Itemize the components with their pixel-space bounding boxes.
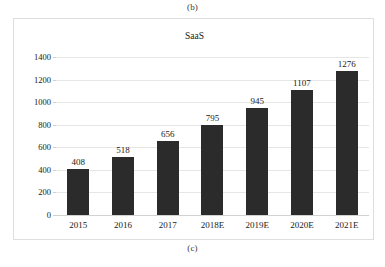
xtick-label-2016: 2016: [114, 220, 132, 230]
gridline-0: [56, 215, 369, 216]
bar-group-2018E: 7952018E: [190, 57, 235, 215]
bar-group-2016: 5182016: [101, 57, 146, 215]
bar-group-2017: 6562017: [145, 57, 190, 215]
ytick-label-1200: 1200: [34, 75, 51, 85]
bar-group-2019E: 9452019E: [235, 57, 280, 215]
ytick-label-200: 200: [38, 187, 51, 197]
bar-value-label-2018E: 795: [206, 113, 220, 123]
bar-2016[interactable]: [112, 157, 134, 215]
xtick-label-2020E: 2020E: [290, 220, 314, 230]
bar-2017[interactable]: [157, 141, 179, 215]
xtick-label-2018E: 2018E: [201, 220, 225, 230]
bar-group-2020E: 11072020E: [280, 57, 325, 215]
xtick-label-2015: 2015: [69, 220, 87, 230]
bar-value-label-2021E: 1276: [338, 59, 356, 69]
bar-value-label-2016: 518: [116, 145, 130, 155]
bar-value-label-2015: 408: [72, 157, 86, 167]
xtick-label-2019E: 2019E: [245, 220, 269, 230]
ytick-label-1000: 1000: [34, 97, 51, 107]
chart-title: SaaS: [14, 31, 375, 41]
bar-2020E[interactable]: [291, 90, 313, 215]
xtick-label-2021E: 2021E: [335, 220, 359, 230]
bar-group-2021E: 12762021E: [324, 57, 369, 215]
bar-2015[interactable]: [67, 169, 89, 215]
bar-value-label-2020E: 1107: [293, 78, 311, 88]
bar-2021E[interactable]: [336, 71, 358, 215]
ytick-mark-0: [53, 215, 56, 216]
ytick-label-0: 0: [47, 210, 51, 220]
ytick-label-600: 600: [38, 142, 51, 152]
figure-caption-top: (b): [0, 2, 385, 12]
bar-group-2015: 4082015: [56, 57, 101, 215]
plot-area: 0200400600800100012001400408201551820166…: [56, 57, 369, 215]
bar-2018E[interactable]: [201, 125, 223, 215]
bar-value-label-2017: 656: [161, 129, 175, 139]
ytick-label-800: 800: [38, 120, 51, 130]
saas-bar-chart: SaaS 02004006008001000120014004082015518…: [13, 18, 374, 240]
ytick-label-1400: 1400: [34, 52, 51, 62]
figure-caption-bottom: (c): [0, 243, 385, 253]
ytick-label-400: 400: [38, 165, 51, 175]
bar-2019E[interactable]: [246, 108, 268, 215]
bar-value-label-2019E: 945: [250, 96, 264, 106]
xtick-label-2017: 2017: [159, 220, 177, 230]
